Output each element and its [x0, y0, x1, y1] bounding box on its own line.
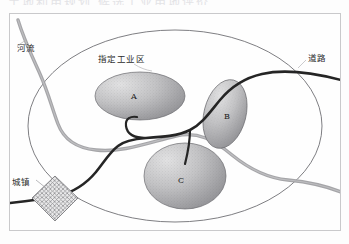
map-page: 土地利用规划 候选工业用地评价 [0, 0, 349, 244]
town-label-leader [36, 180, 46, 188]
site-ellipse-c[interactable] [144, 143, 226, 209]
town-label: 城镇 [12, 175, 31, 187]
road-label-leader [298, 60, 306, 68]
site-label-c: C [178, 176, 184, 185]
designated-industrial-zone-label: 指定工业区 [98, 52, 145, 64]
site-label-b: B [224, 112, 230, 121]
road-label: 道路 [308, 51, 327, 63]
map-canvas [0, 0, 349, 244]
river-label: 河流 [17, 41, 36, 53]
zone-label-leader [134, 64, 152, 71]
site-ellipse-a[interactable] [95, 72, 185, 120]
site-label-a: A [131, 92, 137, 101]
